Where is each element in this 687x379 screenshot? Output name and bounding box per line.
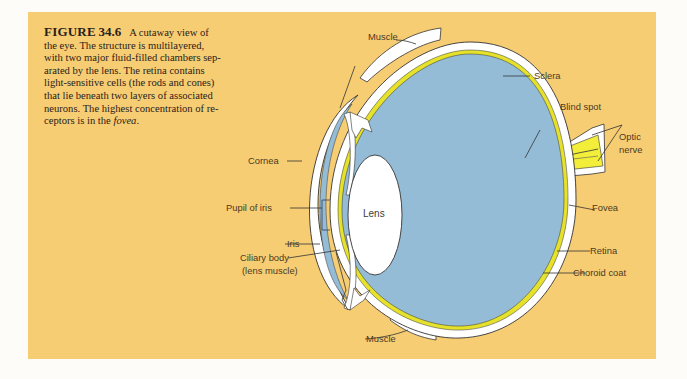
label-retina: Retina [590, 245, 618, 256]
label-blind-spot: Blind spot [560, 101, 602, 112]
label-pupil: Pupil of iris [226, 202, 272, 213]
label-optic: Optic [619, 131, 641, 142]
label-muscle-bottom: Muscle [366, 333, 396, 344]
label-sclera: Sclera [534, 70, 561, 81]
label-muscle-top: Muscle [368, 31, 398, 42]
label-cornea: Cornea [248, 155, 280, 166]
eye-cutaway-diagram: Muscle Sclera Blind spot Optic nerve Cor… [0, 0, 687, 379]
label-iris: Iris [287, 238, 300, 249]
label-fovea: Fovea [592, 202, 619, 213]
label-ciliary-body: Ciliary body [240, 252, 289, 263]
label-choroid-coat: Choroid coat [573, 267, 627, 278]
label-lens: Lens [363, 208, 385, 219]
label-nerve: nerve [619, 144, 642, 155]
label-lens-muscle: (lens muscle) [242, 265, 298, 276]
